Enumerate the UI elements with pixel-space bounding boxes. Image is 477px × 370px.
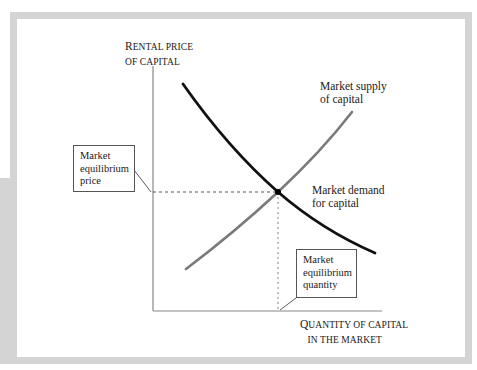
x-axis-label-line1: UANTITY OF CAPITAL — [308, 320, 408, 330]
supply-label-line1: Market supply — [320, 80, 387, 93]
equilibrium-quantity-callout: Market equilibrium quantity — [296, 249, 357, 298]
demand-label-line1: Market demand — [312, 184, 385, 197]
equilibrium-point — [275, 189, 281, 195]
demand-curve — [183, 84, 375, 253]
supply-label: Market supply of capital — [320, 80, 387, 106]
quantity-box-line2: equilibrium — [303, 267, 350, 280]
x-axis-label-line2: IN THE MARKET — [300, 334, 382, 347]
demand-label-line2: for capital — [312, 197, 385, 210]
price-box-line3: price — [80, 175, 128, 188]
x-axis-label: QUANTITY OF CAPITAL IN THE MARKET — [300, 318, 382, 347]
price-leader-line — [134, 170, 151, 192]
equilibrium-price-callout: Market equilibrium price — [73, 145, 135, 192]
quantity-box-line1: Market — [303, 254, 350, 267]
supply-demand-chart — [0, 0, 477, 370]
demand-label: Market demand for capital — [312, 184, 385, 210]
y-axis-label-line1: ENTAL PRICE — [133, 42, 193, 52]
quantity-leader-line — [280, 298, 296, 310]
y-axis-label-cap: R — [125, 40, 133, 52]
price-box-line1: Market — [80, 150, 128, 163]
supply-label-line2: of capital — [320, 93, 387, 106]
quantity-box-line3: quantity — [303, 279, 350, 292]
y-axis-label: RENTAL PRICE OF CAPITAL — [125, 40, 193, 69]
price-box-line2: equilibrium — [80, 163, 128, 176]
y-axis-label-line2: OF CAPITAL — [125, 56, 193, 69]
